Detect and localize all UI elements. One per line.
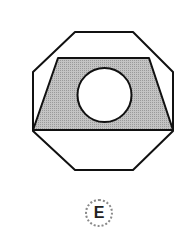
option-label-e[interactable]: E [85, 199, 113, 227]
inner-circle [78, 68, 132, 122]
